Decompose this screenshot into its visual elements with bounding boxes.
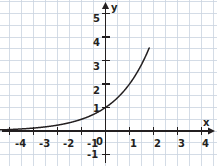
y-tick-label-1: 1 bbox=[93, 104, 100, 114]
y-tick-label-3: 3 bbox=[93, 62, 100, 72]
y-tick-label--1: -1 bbox=[87, 150, 98, 160]
x-axis-label: x bbox=[203, 118, 209, 128]
graph-figure: -4 -3 -2 -1 1 2 3 4 0 5 4 3 2 1 -1 y x bbox=[0, 0, 217, 166]
y-tick-label-2: 2 bbox=[93, 86, 100, 96]
x-tick-label-1: 1 bbox=[130, 139, 137, 149]
x-tick-label-2: 2 bbox=[154, 139, 161, 149]
x-tick-label-4: 4 bbox=[202, 139, 209, 149]
x-tick-label--4: -4 bbox=[15, 139, 26, 149]
x-tick-label-3: 3 bbox=[178, 139, 185, 149]
y-tick-label-4: 4 bbox=[93, 38, 100, 48]
x-tick-label--2: -2 bbox=[63, 139, 74, 149]
y-axis-label: y bbox=[111, 3, 118, 13]
x-tick-label--3: -3 bbox=[39, 139, 50, 149]
origin-label: 0 bbox=[96, 137, 103, 147]
y-tick-label-5: 5 bbox=[93, 14, 100, 24]
